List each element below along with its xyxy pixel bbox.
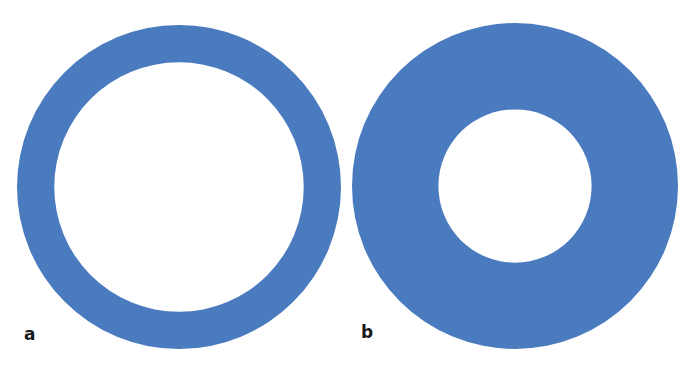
ring-a-thin	[17, 25, 341, 349]
ring-diagram	[0, 0, 698, 371]
ring-b-thick	[352, 23, 678, 349]
panel-label-a: a	[24, 326, 35, 343]
panel-label-b: b	[361, 324, 373, 341]
